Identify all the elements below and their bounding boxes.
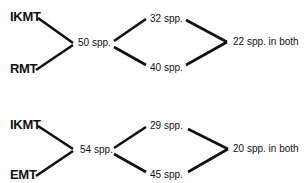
branch-count-top: 29 spp. — [150, 121, 183, 131]
overlap-count: 22 spp. in both — [233, 37, 299, 47]
connector-line — [114, 47, 146, 65]
source-label-top: IKMT — [10, 10, 41, 23]
connector-line — [36, 151, 73, 176]
combined-count: 50 spp. — [78, 38, 111, 48]
branch-count-bottom: 45 spp. — [150, 170, 183, 180]
branch-count-bottom: 40 spp. — [150, 63, 183, 73]
connector-line — [188, 129, 228, 149]
connector-line — [114, 154, 146, 172]
connector-line — [38, 126, 73, 149]
connector-line — [186, 20, 227, 42]
connector-line — [186, 42, 227, 65]
connector-line — [188, 149, 228, 172]
overlap-count: 20 spp. in both — [233, 144, 299, 154]
comparison-diagram-ikmt-emt: IKMT EMT 54 spp. 29 spp. 45 spp. 20 spp.… — [0, 92, 308, 183]
comparison-diagram-ikmt-rmt: IKMT RMT 50 spp. 32 spp. 40 spp. 22 spp.… — [0, 0, 308, 92]
source-label-top: IKMT — [10, 118, 41, 131]
source-label-bottom: RMT — [10, 62, 37, 75]
connector-line — [38, 18, 73, 43]
source-label-bottom: EMT — [10, 168, 37, 181]
combined-count: 54 spp. — [80, 145, 113, 155]
branch-count-top: 32 spp. — [150, 14, 183, 24]
connector-line — [114, 19, 146, 41]
connector-line — [36, 45, 73, 70]
connector-line — [114, 127, 146, 148]
